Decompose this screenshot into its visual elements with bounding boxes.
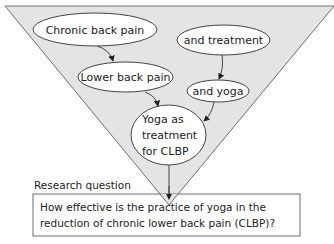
node-label-line-2: treatment: [142, 129, 198, 142]
research-question-line-1: How effective is the practice of yoga in…: [40, 201, 266, 213]
node-and-treatment: and treatment: [177, 25, 270, 55]
node-label: Chronic back pain: [46, 24, 145, 37]
node-label-line-1: Yoga as: [141, 113, 184, 126]
node-label-line-3: for CLBP: [142, 145, 189, 158]
node-label: and treatment: [184, 34, 264, 47]
node-and-yoga: and yoga: [187, 80, 249, 102]
research-question-label: Research question: [34, 179, 131, 191]
funnel-diagram: Chronic back pain Lower back pain and tr…: [0, 0, 334, 244]
research-question-line-2: reduction of chronic lower back pain (CL…: [40, 217, 275, 229]
node-label: Lower back pain: [81, 71, 171, 84]
node-lower-back-pain: Lower back pain: [78, 62, 173, 92]
node-label: and yoga: [192, 85, 243, 98]
node-yoga-as-treatment: Yoga as treatment for CLBP: [131, 105, 206, 165]
node-chronic-back-pain: Chronic back pain: [33, 13, 157, 46]
